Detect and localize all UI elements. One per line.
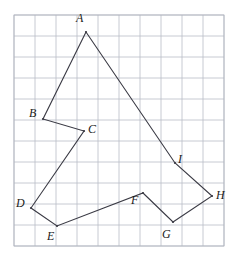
vertex-dot-h bbox=[211, 195, 213, 197]
vertex-markers bbox=[30, 31, 213, 227]
vertex-dot-i bbox=[174, 162, 176, 164]
vertex-label-a: A bbox=[76, 12, 83, 24]
vertex-label-b: B bbox=[29, 107, 36, 119]
vertex-dot-f bbox=[142, 192, 144, 194]
vertex-label-i: I bbox=[178, 153, 182, 165]
vertex-label-c: C bbox=[88, 123, 96, 135]
vertex-dot-g bbox=[172, 221, 174, 223]
vertex-dot-e bbox=[56, 225, 58, 227]
figure-canvas: ABCDEFGHI bbox=[0, 0, 243, 259]
vertex-dot-b bbox=[42, 118, 44, 120]
vertex-label-e: E bbox=[47, 230, 54, 242]
geometry-figure bbox=[0, 0, 243, 259]
vertex-dot-a bbox=[85, 31, 87, 33]
vertex-label-g: G bbox=[162, 228, 171, 240]
vertex-label-f: F bbox=[131, 194, 138, 206]
vertex-dot-c bbox=[83, 130, 85, 132]
grid-lines bbox=[14, 15, 224, 246]
polygon-outline bbox=[31, 32, 212, 226]
vertex-dot-d bbox=[30, 207, 32, 209]
vertex-label-h: H bbox=[216, 189, 225, 201]
vertex-label-d: D bbox=[16, 197, 25, 209]
